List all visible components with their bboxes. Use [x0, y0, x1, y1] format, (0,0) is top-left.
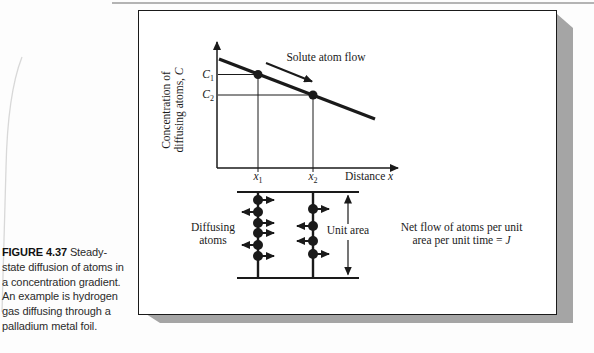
- caption-line1: FIGURE 4.37 Steady-: [2, 245, 147, 260]
- unit-area-label: Unit area: [317, 224, 379, 237]
- atom: [253, 240, 263, 250]
- atom: [308, 204, 318, 214]
- atom: [253, 218, 263, 228]
- diffusing-atoms-group: [242, 195, 329, 261]
- figure-caption: FIGURE 4.37 Steady- state diffusion of a…: [2, 245, 147, 334]
- data-point-c2: [309, 91, 318, 100]
- atom: [308, 249, 318, 259]
- atom: [253, 228, 263, 238]
- y-axis-label-line1: Concentration of: [160, 55, 173, 165]
- net-flow-line2: area per unit time = J: [389, 234, 534, 247]
- net-flow-label: Net flow of atoms per unit area per unit…: [389, 221, 534, 247]
- atom: [253, 207, 263, 217]
- diffusing-atoms-label: Diffusing atoms: [181, 221, 245, 247]
- atom: [253, 195, 263, 205]
- c2-tick-label: C2: [194, 88, 214, 101]
- x1-tick-label: x1: [249, 170, 267, 183]
- atom: [253, 251, 263, 261]
- scanned-textbook-figure: Concentration of diffusing atoms, C C1 C…: [0, 0, 594, 353]
- figure-number: FIGURE 4.37: [2, 246, 67, 258]
- x-axis-label: Distance x: [345, 170, 393, 183]
- c1-tick-label: C1: [194, 68, 214, 81]
- concentration-gradient-line: [219, 59, 375, 119]
- atom: [308, 236, 318, 246]
- data-point-c1: [254, 70, 263, 79]
- y-axis-label: Concentration of diffusing atoms, C: [160, 55, 186, 165]
- solute-flow-label: Solute atom flow: [278, 51, 374, 64]
- y-axis-label-line2: diffusing atoms, C: [173, 55, 186, 165]
- x2-tick-label: x2: [304, 170, 322, 183]
